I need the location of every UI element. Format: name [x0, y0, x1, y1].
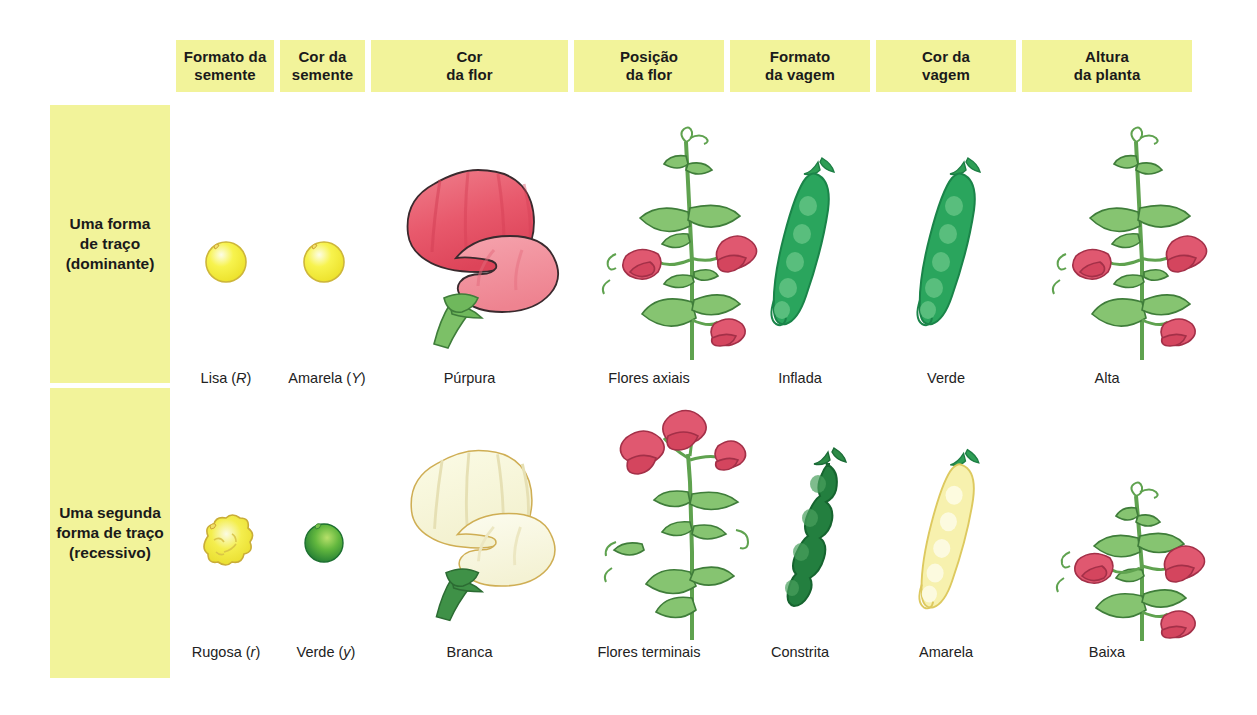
caption-recessive-pod-shape: Constrita — [730, 644, 870, 660]
header-line-2: da flor — [446, 66, 493, 83]
cell-dominant-seed-shape — [198, 232, 254, 288]
row-label-line-3: (recessivo) — [69, 544, 151, 561]
header-line-1: Formato da — [184, 48, 267, 65]
pod-green-icon — [906, 150, 1006, 350]
caption-text: Verde — [297, 644, 335, 660]
caption-recessive-flower-position: Flores terminais — [574, 644, 724, 660]
cell-dominant-pod-color — [906, 150, 1006, 350]
column-header-flower-position: Posição da flor — [574, 40, 724, 92]
header-line-1: Cor da — [922, 48, 970, 65]
caption-recessive-seed-color: Verde (y) — [276, 644, 376, 660]
caption-text: Rugosa — [192, 644, 242, 660]
seed-wrinkled-yellow-icon — [196, 512, 256, 572]
cell-dominant-pod-shape — [760, 150, 860, 350]
header-line-1: Formato — [770, 48, 831, 65]
cell-dominant-flower-color — [398, 138, 578, 358]
cell-recessive-flower-color — [398, 420, 578, 630]
header-line-1: Cor — [456, 48, 482, 65]
caption-dominant-flower-position: Flores axiais — [574, 370, 724, 386]
caption-text: Lisa — [201, 370, 228, 386]
cell-recessive-flower-position — [596, 402, 796, 642]
column-header-plant-height: Altura da planta — [1022, 40, 1192, 92]
column-header-pod-color: Cor da vagem — [876, 40, 1016, 92]
caption-dominant-flower-color: Púrpura — [371, 370, 568, 386]
header-line-1: Cor da — [298, 48, 346, 65]
header-line-2: semente — [292, 66, 354, 83]
caption-dominant-seed-shape: Lisa (R) — [176, 370, 276, 386]
header-line-2: semente — [194, 66, 256, 83]
column-header-flower-color: Cor da flor — [371, 40, 568, 92]
flower-purple-icon — [398, 138, 578, 358]
row-label-line-2: forma de traço — [56, 524, 164, 541]
row-label-line-3: (dominante) — [66, 255, 155, 272]
row-label-recessive: Uma segunda forma de traço (recessivo) — [50, 388, 170, 678]
row-label-dominant: Uma forma de traço (dominante) — [50, 105, 170, 383]
caption-dominant-seed-color: Amarela (Y) — [272, 370, 382, 386]
flower-white-icon — [398, 420, 578, 630]
caption-recessive-plant-height: Baixa — [1022, 644, 1192, 660]
seed-round-yellow-icon — [198, 232, 254, 288]
cell-recessive-seed-shape — [196, 512, 256, 572]
column-header-seed-shape: Formato da semente — [176, 40, 274, 92]
caption-recessive-seed-shape: Rugosa (r) — [170, 644, 282, 660]
caption-recessive-pod-color: Amarela — [876, 644, 1016, 660]
pod-yellow-icon — [906, 442, 1006, 632]
cell-recessive-pod-color — [906, 442, 1006, 632]
caption-dominant-pod-shape: Inflada — [730, 370, 870, 386]
column-header-seed-color: Cor da semente — [280, 40, 365, 92]
row-label-line-2: de traço — [80, 235, 140, 252]
caption-dominant-pod-color: Verde — [876, 370, 1016, 386]
cell-dominant-plant-height — [1046, 112, 1246, 362]
seed-round-yellow-icon — [296, 232, 352, 288]
header-line-2: da planta — [1074, 66, 1141, 83]
caption-dominant-plant-height: Alta — [1022, 370, 1192, 386]
seed-round-green-icon — [297, 514, 351, 568]
header-line-1: Altura — [1085, 48, 1129, 65]
cell-recessive-plant-height — [1046, 478, 1246, 643]
mendel-traits-figure: Formato da semente Cor da semente Cor da… — [0, 0, 1257, 715]
caption-recessive-flower-color: Branca — [371, 644, 568, 660]
plant-short-icon — [1046, 478, 1246, 643]
allele-symbol: R — [236, 370, 246, 386]
header-line-2: da flor — [626, 66, 673, 83]
header-line-2: da vagem — [765, 66, 835, 83]
caption-text: Amarela — [288, 370, 342, 386]
column-header-pod-shape: Formato da vagem — [730, 40, 870, 92]
allele-symbol: r — [251, 644, 256, 660]
row-label-line-1: Uma segunda — [59, 504, 161, 521]
plant-terminal-flowers-icon — [596, 402, 796, 642]
allele-symbol: Y — [351, 370, 361, 386]
pod-inflated-green-icon — [760, 150, 860, 350]
cell-dominant-seed-color — [296, 232, 352, 288]
cell-recessive-seed-color — [297, 514, 351, 568]
cell-recessive-pod-shape — [770, 442, 870, 632]
plant-tall-icon — [1046, 112, 1246, 362]
header-line-2: vagem — [922, 66, 970, 83]
row-label-line-1: Uma forma — [70, 215, 151, 232]
header-line-1: Posição — [620, 48, 678, 65]
pod-constricted-green-icon — [770, 442, 870, 632]
allele-symbol: y — [343, 644, 350, 660]
